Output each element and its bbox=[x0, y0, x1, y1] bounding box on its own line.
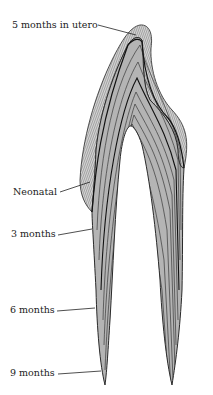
label-5-months-in-utero: 5 months in utero bbox=[12, 20, 98, 30]
label-6-months: 6 months bbox=[10, 305, 55, 315]
tooth-illustration bbox=[0, 0, 213, 395]
label-neonatal: Neonatal bbox=[13, 187, 57, 197]
label-3-months: 3 months bbox=[11, 229, 56, 239]
label-9-months: 9 months bbox=[10, 368, 55, 378]
tooth-diagram: 5 months in utero Neonatal 3 months 6 mo… bbox=[0, 0, 213, 395]
